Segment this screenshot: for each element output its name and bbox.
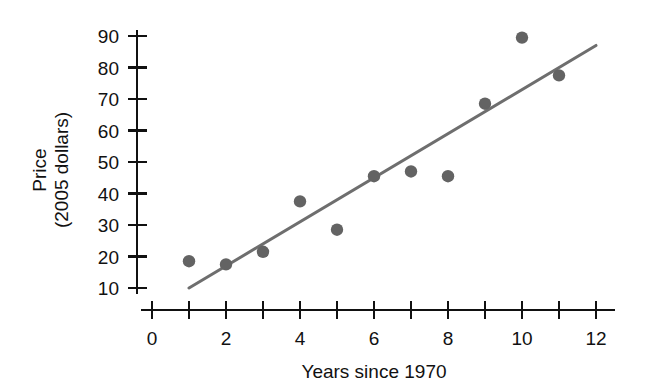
y-axis-tick-labels: 90 80 70 60 50 40 30 20 10 <box>98 26 119 299</box>
x-tick-label: 2 <box>221 328 232 349</box>
y-tick-label: 10 <box>98 278 119 299</box>
x-tick-label: 6 <box>369 328 380 349</box>
y-tick-label: 70 <box>98 89 119 110</box>
trend-line <box>189 45 596 288</box>
y-axis-title-line2: (2005 dollars) <box>51 112 72 228</box>
x-tick-label: 10 <box>511 328 532 349</box>
chart-svg: 90 80 70 60 50 40 30 20 10 Price (2005 d… <box>0 0 648 390</box>
y-tick-label: 20 <box>98 247 119 268</box>
x-tick-label: 8 <box>443 328 454 349</box>
data-point <box>516 31 528 43</box>
data-point <box>294 195 306 207</box>
data-point <box>257 246 269 258</box>
y-axis-title: Price (2005 dollars) <box>29 112 72 228</box>
x-tick-label: 12 <box>585 328 606 349</box>
y-tick-label: 60 <box>98 121 119 142</box>
data-point <box>183 255 195 267</box>
data-point <box>553 69 565 81</box>
data-point-group <box>183 31 565 270</box>
y-axis-title-line1: Price <box>29 148 50 191</box>
scatter-plot-figure: 90 80 70 60 50 40 30 20 10 Price (2005 d… <box>0 0 648 390</box>
y-tick-label: 90 <box>98 26 119 47</box>
data-point <box>368 170 380 182</box>
data-point <box>405 165 417 177</box>
x-tick-label: 4 <box>295 328 306 349</box>
data-point <box>220 258 232 270</box>
y-tick-label: 40 <box>98 184 119 205</box>
y-tick-label: 80 <box>98 58 119 79</box>
y-tick-label: 50 <box>98 152 119 173</box>
x-axis-title: Years since 1970 <box>301 361 446 382</box>
data-point <box>331 224 343 236</box>
y-tick-label: 30 <box>98 215 119 236</box>
x-tick-label: 0 <box>147 328 158 349</box>
x-axis-tick-labels: 0 2 4 6 8 10 12 <box>147 328 607 349</box>
data-point <box>479 98 491 110</box>
data-point <box>442 170 454 182</box>
